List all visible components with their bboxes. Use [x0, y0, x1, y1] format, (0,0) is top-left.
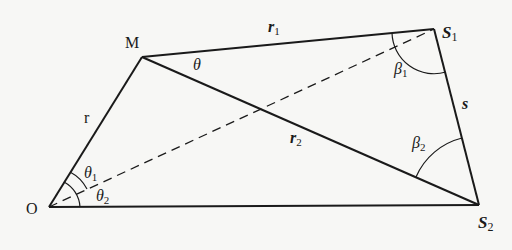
angle-arc-theta2: [64, 182, 80, 207]
label-edge-r1: r1: [268, 18, 280, 37]
label-angle-beta2: β2: [411, 134, 425, 153]
label-point-S1: S1: [442, 23, 457, 44]
label-edge-r: r: [84, 109, 90, 126]
label-angle-theta1: θ1: [84, 164, 97, 183]
label-point-O: O: [26, 200, 38, 217]
label-angle-theta: θ: [193, 56, 201, 73]
edge-O-S1-dashed: [49, 29, 434, 207]
label-edge-r2: r2: [290, 129, 302, 148]
edge-O-S2: [49, 205, 479, 207]
label-point-M: M: [125, 34, 139, 51]
edge-S1-S2: [434, 29, 479, 205]
edge-O-M: [49, 57, 142, 207]
label-edge-s: s: [461, 95, 468, 112]
diagram-canvas: O M S1 S2 r r1 r2 s θ θ1 θ2 β1 β2: [0, 0, 512, 250]
label-angle-theta2: θ2: [96, 187, 109, 206]
edge-M-S1: [142, 29, 434, 57]
edge-M-S2: [142, 57, 479, 205]
label-point-S2: S2: [478, 213, 493, 234]
